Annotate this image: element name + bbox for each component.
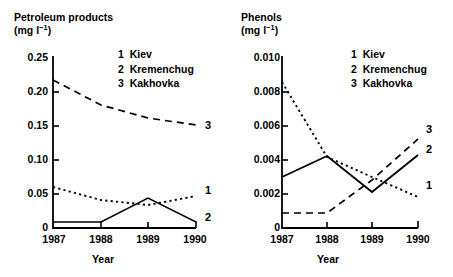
- plot-svg-left: [0, 0, 226, 277]
- series-line-left-kremenchug: [53, 198, 196, 222]
- chart-panel-phenols: Phenols (mg l−1) 1 Kiev 2 Kremenchug 3 K…: [227, 0, 453, 277]
- series-line-right-kakhovka: [282, 139, 418, 213]
- series-line-right-kremenchug: [282, 155, 418, 192]
- axis-lines-left: [53, 56, 196, 228]
- plot-svg-right: [227, 0, 453, 277]
- axis-lines-right: [282, 56, 418, 228]
- series-line-left-kiev: [53, 187, 196, 205]
- chart-panel-petroleum: Petroleum products (mg l−1) 1 Kiev 2 Kre…: [0, 0, 226, 277]
- figure-root: Petroleum products (mg l−1) 1 Kiev 2 Kre…: [0, 0, 453, 277]
- series-line-right-kiev: [282, 82, 418, 197]
- xtick-marks-left: [101, 221, 196, 228]
- series-line-left-kakhovka: [53, 80, 196, 125]
- xtick-marks-right: [327, 221, 418, 228]
